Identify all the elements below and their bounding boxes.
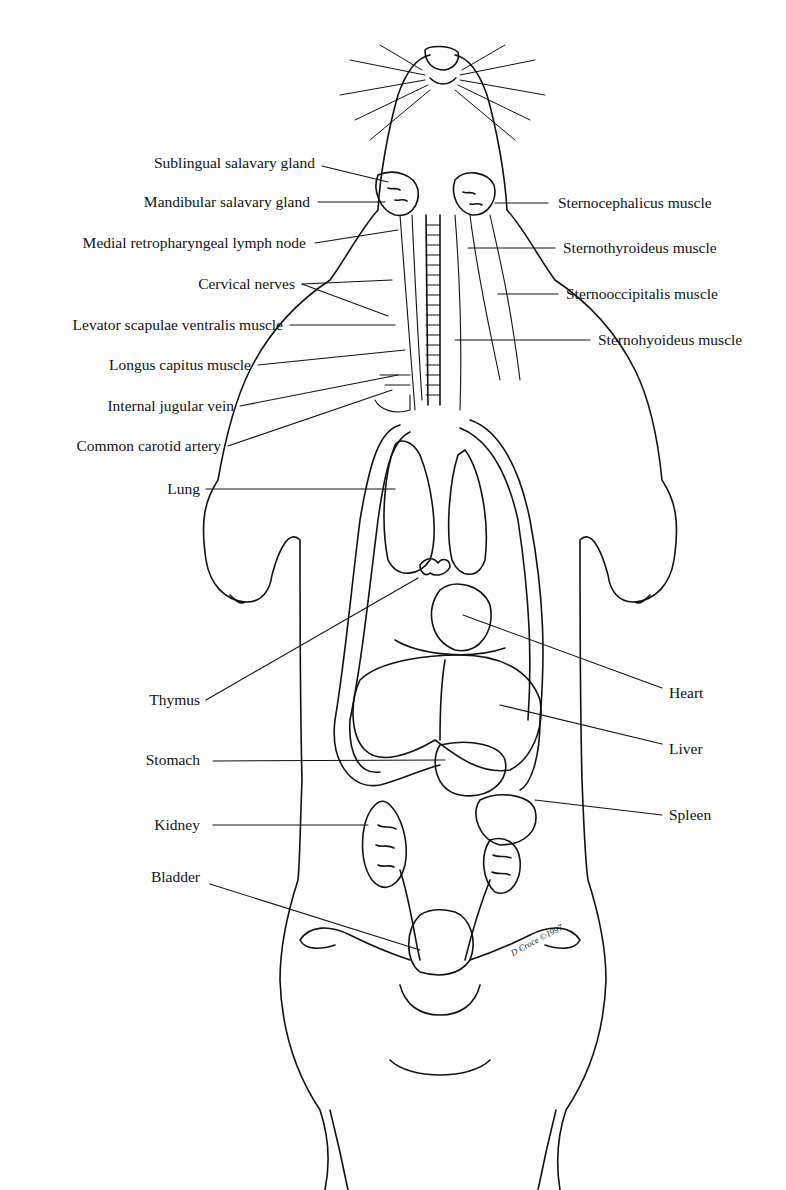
label-sternooccipitalis: Sternooccipitalis muscle <box>566 285 718 303</box>
label-stomach: Stomach <box>146 751 200 769</box>
label-internal-jugular-vein: Internal jugular vein <box>107 397 234 415</box>
trachea <box>426 215 440 405</box>
label-common-carotid-artery: Common carotid artery <box>76 437 221 455</box>
label-sternohyoideus: Sternohyoideus muscle <box>598 331 742 349</box>
label-longus-capitus: Longus capitus muscle <box>109 356 251 374</box>
lungs <box>384 441 486 574</box>
label-sternocephalicus: Sternocephalicus muscle <box>558 194 712 212</box>
label-retropharyngeal-lymph-node: Medial retropharyngeal lymph node <box>83 234 306 252</box>
thoracic-cavity <box>334 420 543 790</box>
label-heart: Heart <box>669 684 703 702</box>
label-spleen: Spleen <box>669 806 711 824</box>
liver <box>353 655 541 771</box>
label-sternothyroideus: Sternothyroideus muscle <box>563 239 717 257</box>
label-bladder: Bladder <box>151 868 200 886</box>
whiskers <box>340 45 545 140</box>
label-cervical-nerves: Cervical nerves <box>198 275 295 293</box>
label-lung: Lung <box>167 480 200 498</box>
label-levator-scapulae: Levator scapulae ventralis muscle <box>73 316 283 334</box>
label-sublingual-gland: Sublingual salavary gland <box>154 154 315 172</box>
label-kidney: Kidney <box>154 816 200 834</box>
label-mandibular-gland: Mandibular salavary gland <box>144 193 310 211</box>
salivary-glands <box>376 172 495 215</box>
kidneys <box>363 801 521 960</box>
stomach-spleen <box>435 742 536 845</box>
rat-anatomy-drawing <box>0 0 786 1190</box>
label-thymus: Thymus <box>149 691 200 709</box>
neck-muscles <box>375 215 520 412</box>
label-liver: Liver <box>669 740 703 758</box>
